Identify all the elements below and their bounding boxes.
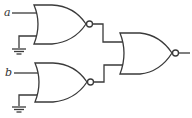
logic-circuit-diagram: a b [0,0,192,118]
input-label-b: b [5,66,12,79]
nor-gate-1 [34,5,93,44]
ground-icon [12,107,26,112]
ground-icon [12,49,26,54]
nor-gate-3 [120,33,179,74]
input-label-a: a [4,6,11,19]
nor-gate-2 [35,63,94,102]
